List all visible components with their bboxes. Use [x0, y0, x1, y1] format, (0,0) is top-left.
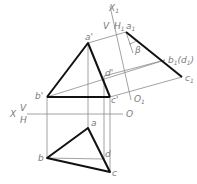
top-view-triangle — [47, 128, 110, 172]
projector-a-aux — [88, 32, 126, 43]
line-bd-top — [47, 158, 104, 159]
beta-label: β — [134, 45, 141, 55]
o-label: O — [126, 109, 133, 119]
b1-d1-label: b1(d1) — [168, 55, 194, 66]
c-prime-label: c' — [111, 95, 118, 105]
d-prime-label: d' — [105, 68, 113, 78]
front-view-triangle-sides — [47, 43, 110, 97]
projector-c-aux — [110, 77, 182, 97]
a-prime-label: a' — [85, 32, 93, 42]
c-label: c — [112, 168, 117, 178]
d-label: d — [105, 149, 111, 159]
h1-label: H1 — [114, 21, 125, 32]
b-prime-label: b' — [35, 91, 43, 101]
projection-diagram: X1 V H1 a1 a' β b1(d1) c1 d' b' c' O1 X … — [0, 0, 197, 184]
v-label-aux: V — [103, 21, 110, 31]
b-label: b — [38, 153, 44, 163]
projector-b-aux — [47, 60, 165, 97]
x-label: X — [9, 109, 17, 119]
h-label: H — [20, 115, 27, 125]
x1-label: X1 — [108, 3, 119, 14]
a1-label: a1 — [126, 21, 135, 32]
v-label: V — [20, 103, 27, 113]
o1-label: O1 — [134, 94, 145, 105]
a-label: a — [91, 118, 97, 128]
c1-label: c1 — [185, 73, 194, 84]
